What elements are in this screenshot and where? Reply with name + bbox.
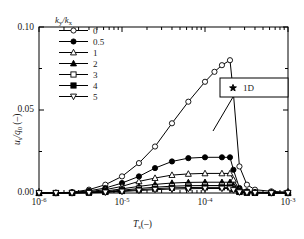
x-tick-label-0: 10-6 <box>25 198 53 208</box>
series-marker-0.5-8 <box>169 159 174 164</box>
series-marker-0-8 <box>169 121 174 126</box>
legend-entry-1[interactable] <box>59 49 88 55</box>
legend-label-6: 5 <box>93 93 98 102</box>
legend-label-3: 2 <box>93 60 98 69</box>
x-tick-exp-2: -4 <box>207 196 212 203</box>
legend-entry-2[interactable] <box>59 60 88 66</box>
legend-entry-4[interactable] <box>59 83 88 88</box>
legend-title-sub-x: x <box>69 19 72 26</box>
legend-entry-0.5[interactable] <box>59 39 88 44</box>
y-tick-label-0: 0.10 <box>3 23 34 33</box>
legend-sample-marker-3 <box>71 72 76 77</box>
x-tick-label-2: 10-4 <box>191 198 219 208</box>
legend-label-2: 1 <box>93 49 98 58</box>
legend-entry-0[interactable] <box>59 28 88 33</box>
series-marker-0.5-9 <box>186 156 191 161</box>
legend-entry-3[interactable] <box>59 72 88 77</box>
legend-sample-marker-0 <box>71 28 76 33</box>
x-tick-label-3: 10-3 <box>274 198 302 208</box>
series-marker-0.5-7 <box>152 166 157 171</box>
x-tick-label-1: 10-5 <box>108 198 136 208</box>
y-tick-label-2: 0.00 <box>3 188 34 198</box>
legend-sample-marker-0.5 <box>71 39 76 44</box>
series-marker-0-5 <box>119 174 124 179</box>
y-axis-label-sub-0: 0 <box>16 127 23 130</box>
x-tick-mantissa-1: 10 <box>115 197 125 207</box>
series-marker-0-10 <box>202 79 207 84</box>
legend-title: ky/kx <box>55 16 72 25</box>
x-tick-mantissa-0: 10 <box>32 197 42 207</box>
x-tick-mantissa-3: 10 <box>281 197 291 207</box>
series-marker-0-13 <box>227 58 232 63</box>
x-axis-label-unit: (–) <box>141 219 152 229</box>
series-marker-0.5-13 <box>231 167 236 172</box>
series-marker-0-9 <box>186 99 191 104</box>
series-marker-0-12 <box>219 63 224 68</box>
y-axis-label-unit: (–) <box>12 114 22 127</box>
x-tick-mantissa-2: 10 <box>198 197 208 207</box>
x-axis-label-sub: s <box>138 223 141 230</box>
legend-sample-marker-4 <box>71 83 76 88</box>
series-marker-0-16 <box>244 182 249 187</box>
series-marker-0-7 <box>152 144 157 149</box>
legend-label-1: 0.5 <box>93 38 104 47</box>
series-marker-0.5-11 <box>219 155 224 160</box>
y-axis-label-q: /q <box>12 130 22 137</box>
figure: 0.10 0.05 0.00 us/q0 (–) 10-6 10-5 10-4 … <box>0 0 304 239</box>
plot-frame <box>39 27 288 193</box>
y-axis-label: us/q0 (–) <box>12 114 22 145</box>
legend-label-4: 3 <box>93 71 98 80</box>
x-tick-exp-3: -3 <box>290 196 295 203</box>
series-marker-0-11 <box>212 69 217 74</box>
y-axis-label-sub-s: s <box>16 138 23 141</box>
x-tick-exp-0: -6 <box>41 196 46 203</box>
series-marker-0.5-10 <box>202 155 207 160</box>
x-tick-exp-1: -5 <box>124 196 129 203</box>
series-marker-0-6 <box>136 161 141 166</box>
annotation-leader-line <box>213 97 233 131</box>
legend-label-5: 4 <box>93 82 98 91</box>
series-marker-0-15 <box>237 164 242 169</box>
legend-title-slash: /k <box>62 15 69 25</box>
x-axis-label: Ts(–) <box>133 220 152 230</box>
legend-title-sub-y: y <box>59 19 62 26</box>
y-axis-label-u: u <box>12 140 22 145</box>
legend-label-0: 0 <box>93 27 98 36</box>
series-marker-0.5-12 <box>227 155 232 160</box>
legend-entry-5[interactable] <box>59 94 88 100</box>
series-line-0.5 <box>39 157 288 193</box>
annotation-label-1d: 1D <box>243 84 254 93</box>
